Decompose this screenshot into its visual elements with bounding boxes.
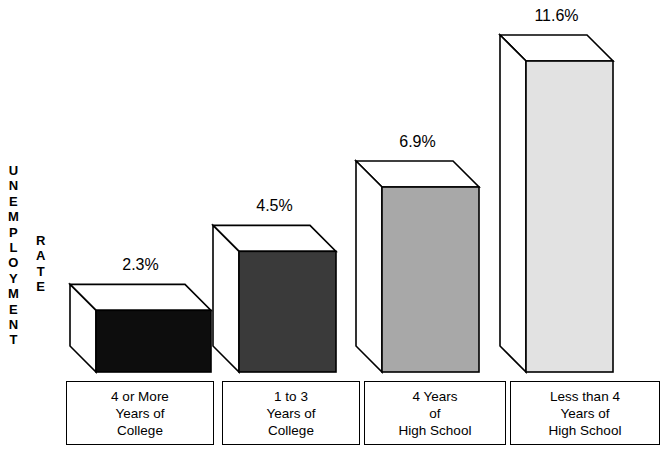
bar-2-front-face — [382, 187, 479, 372]
bar-3-side-face — [500, 35, 526, 372]
category-label-1-line-1: Years of — [266, 405, 315, 422]
bar-chart: UNEMPLOYMENT RATE 2.3%4 or MoreYears ofC… — [0, 0, 667, 450]
category-label-3-line-2: High School — [549, 422, 622, 439]
bar-0 — [70, 284, 211, 372]
category-label-3-line-0: Less than 4 — [550, 388, 620, 405]
bar-1 — [213, 225, 336, 372]
category-label-2-line-1: of — [429, 405, 440, 422]
value-label-1: 4.5% — [203, 197, 346, 215]
category-label-1-line-0: 1 to 3 — [274, 388, 308, 405]
category-label-2-line-2: High School — [399, 422, 472, 439]
category-label-2-line-0: 4 Years — [412, 388, 457, 405]
value-label-2: 6.9% — [346, 133, 489, 151]
category-label-box-1: 1 to 3Years ofCollege — [222, 381, 360, 445]
category-label-box-2: 4 YearsofHigh School — [364, 381, 506, 445]
bar-3-front-face — [526, 61, 613, 372]
bar-1-front-face — [239, 251, 336, 372]
bar-3 — [500, 35, 613, 372]
category-label-box-3: Less than 4Years ofHigh School — [510, 381, 660, 445]
category-label-1-line-2: College — [268, 422, 314, 439]
bar-1-side-face — [213, 225, 239, 372]
bar-2 — [356, 161, 479, 372]
category-label-box-0: 4 or MoreYears ofCollege — [66, 381, 214, 445]
value-label-0: 2.3% — [60, 256, 221, 274]
category-label-0-line-1: Years of — [115, 405, 164, 422]
bar-2-side-face — [356, 161, 382, 372]
category-label-0-line-2: College — [117, 422, 163, 439]
value-label-3: 11.6% — [490, 7, 623, 25]
category-label-3-line-1: Years of — [560, 405, 609, 422]
category-label-0-line-0: 4 or More — [111, 388, 169, 405]
bar-0-front-face — [96, 310, 211, 372]
